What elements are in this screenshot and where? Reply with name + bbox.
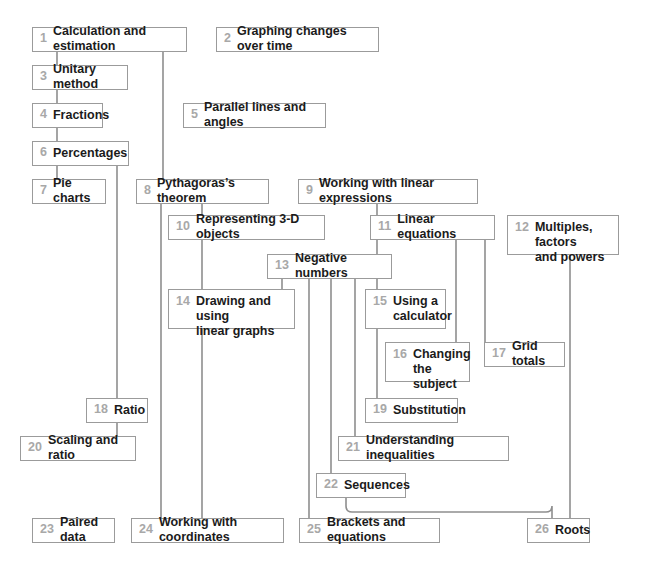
topic-label: Working with linear expressions bbox=[319, 176, 469, 206]
topic-box-5[interactable]: 5Parallel lines and angles bbox=[183, 103, 326, 128]
topic-number: 14 bbox=[176, 294, 190, 309]
topic-number: 18 bbox=[94, 402, 108, 417]
topic-label: Working with coordinates bbox=[159, 515, 275, 545]
topic-label: Multiples, factors and powers bbox=[535, 220, 610, 264]
topic-label: Ratio bbox=[114, 403, 145, 418]
topic-label: Representing 3-D objects bbox=[196, 212, 316, 242]
topic-box-26[interactable]: 26Roots bbox=[527, 518, 590, 543]
topic-box-12[interactable]: 12Multiples, factors and powers bbox=[507, 215, 619, 255]
topic-box-23[interactable]: 23Paired data bbox=[32, 518, 115, 543]
topic-box-2[interactable]: 2Graphing changes over time bbox=[216, 27, 379, 52]
topic-box-16[interactable]: 16Changing the subject bbox=[385, 342, 470, 382]
topic-box-6[interactable]: 6Percentages bbox=[32, 141, 129, 166]
topic-number: 16 bbox=[393, 347, 407, 362]
topic-box-24[interactable]: 24Working with coordinates bbox=[131, 518, 284, 543]
topic-number: 12 bbox=[515, 220, 529, 235]
topic-box-1[interactable]: 1Calculation and estimation bbox=[32, 27, 187, 52]
topic-box-20[interactable]: 20Scaling and ratio bbox=[20, 436, 136, 461]
topic-box-19[interactable]: 19Substitution bbox=[365, 398, 458, 423]
topic-number: 10 bbox=[176, 219, 190, 234]
topic-label: Fractions bbox=[53, 108, 109, 123]
topic-label: Linear equations bbox=[397, 212, 486, 242]
diagram-canvas: 1Calculation and estimation2Graphing cha… bbox=[0, 0, 654, 579]
topic-number: 25 bbox=[307, 522, 321, 537]
topic-number: 6 bbox=[40, 145, 47, 160]
topic-box-14[interactable]: 14Drawing and using linear graphs bbox=[168, 289, 295, 329]
topic-label: Parallel lines and angles bbox=[204, 100, 317, 130]
topic-label: Roots bbox=[555, 523, 590, 538]
topic-number: 21 bbox=[346, 440, 360, 455]
topic-number: 1 bbox=[40, 31, 47, 46]
topic-label: Drawing and using linear graphs bbox=[196, 294, 286, 338]
topic-number: 4 bbox=[40, 107, 47, 122]
topic-number: 9 bbox=[306, 183, 313, 198]
topic-label: Using a calculator bbox=[393, 294, 452, 324]
topic-box-4[interactable]: 4Fractions bbox=[32, 103, 103, 128]
topic-box-22[interactable]: 22Sequences bbox=[316, 473, 406, 498]
topic-number: 7 bbox=[40, 183, 47, 198]
topic-number: 3 bbox=[40, 69, 47, 84]
topic-label: Graphing changes over time bbox=[237, 24, 370, 54]
topic-box-25[interactable]: 25Brackets and equations bbox=[299, 518, 440, 543]
topic-number: 24 bbox=[139, 522, 153, 537]
topic-box-21[interactable]: 21Understanding inequalities bbox=[338, 436, 509, 461]
topic-number: 8 bbox=[144, 183, 151, 198]
topic-label: Sequences bbox=[344, 478, 410, 493]
topic-label: Substitution bbox=[393, 403, 466, 418]
topic-box-15[interactable]: 15Using a calculator bbox=[365, 289, 446, 329]
topic-label: Paired data bbox=[60, 515, 106, 545]
topic-label: Unitary method bbox=[53, 62, 119, 92]
topic-box-3[interactable]: 3Unitary method bbox=[32, 65, 128, 90]
topic-number: 17 bbox=[492, 346, 506, 361]
topic-number: 19 bbox=[373, 402, 387, 417]
topic-number: 26 bbox=[535, 522, 549, 537]
topic-number: 2 bbox=[224, 31, 231, 46]
topic-label: Grid totals bbox=[512, 339, 556, 369]
topic-box-13[interactable]: 13Negative numbers bbox=[267, 254, 392, 279]
topic-number: 22 bbox=[324, 477, 338, 492]
topic-label: Negative numbers bbox=[295, 251, 383, 281]
topic-box-18[interactable]: 18Ratio bbox=[86, 398, 148, 423]
topic-number: 11 bbox=[378, 219, 391, 234]
topic-box-9[interactable]: 9Working with linear expressions bbox=[298, 179, 478, 204]
topic-label: Understanding inequalities bbox=[366, 433, 500, 463]
topic-label: Percentages bbox=[53, 146, 127, 161]
topic-number: 5 bbox=[191, 107, 198, 122]
topic-number: 15 bbox=[373, 294, 387, 309]
topic-box-17[interactable]: 17Grid totals bbox=[484, 342, 565, 367]
topic-label: Changing the subject bbox=[413, 347, 471, 391]
topic-label: Scaling and ratio bbox=[48, 433, 127, 463]
topic-label: Brackets and equations bbox=[327, 515, 431, 545]
topic-box-10[interactable]: 10Representing 3-D objects bbox=[168, 215, 325, 240]
topic-number: 20 bbox=[28, 440, 42, 455]
topic-box-7[interactable]: 7Pie charts bbox=[32, 179, 106, 204]
topic-number: 13 bbox=[275, 258, 289, 273]
topic-label: Calculation and estimation bbox=[53, 24, 178, 54]
topic-label: Pie charts bbox=[53, 176, 97, 206]
topic-label: Pythagoras’s theorem bbox=[157, 176, 260, 206]
topic-box-8[interactable]: 8Pythagoras’s theorem bbox=[136, 179, 269, 204]
topic-number: 23 bbox=[40, 522, 54, 537]
topic-box-11[interactable]: 11Linear equations bbox=[370, 215, 495, 240]
